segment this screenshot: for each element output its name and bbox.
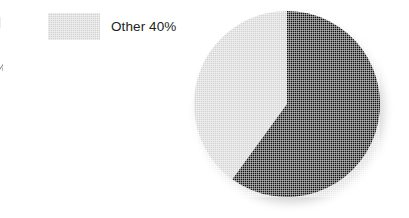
legend-fragment-percent-text: % — [0, 60, 3, 75]
chart-legend: % Other 40% — [0, 0, 200, 110]
legend-label-other: Other 40% — [111, 19, 176, 34]
pie-chart — [194, 11, 380, 197]
legend-item-other[interactable]: Other 40% — [48, 13, 176, 40]
pie-chart-figure: % Other 40% — [0, 0, 409, 218]
legend-fragment-swatch-icon — [0, 17, 1, 28]
legend-swatch-other-icon — [48, 13, 100, 40]
pie-slices — [194, 11, 380, 197]
